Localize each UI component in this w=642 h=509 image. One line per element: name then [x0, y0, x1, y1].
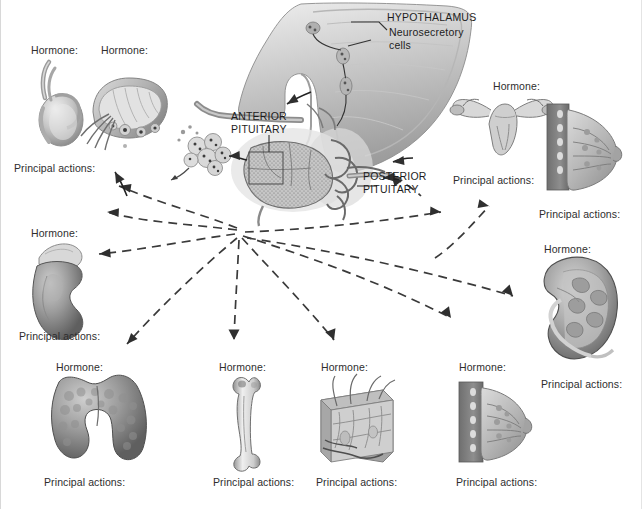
label-hormone-mammary-lower: Hormone:	[459, 361, 506, 373]
label-hormone-adrenal: Hormone:	[31, 227, 78, 239]
label-actions-testis: Principal actions:	[14, 162, 95, 174]
label-actions-thyroid: Principal actions:	[44, 476, 125, 488]
label-hormone-skin: Hormone:	[321, 361, 368, 373]
label-actions-skin: Principal actions:	[316, 476, 397, 488]
label-hypothalamus: HYPOTHALAMUS	[387, 11, 476, 23]
label-actions-kidney: Principal actions:	[541, 378, 622, 390]
label-hormone-uterus: Hormone:	[493, 80, 540, 92]
label-hormone-ovary: Hormone:	[101, 44, 148, 56]
label-actions-uterus: Principal actions:	[453, 174, 534, 186]
label-hormone-kidney: Hormone:	[544, 243, 591, 255]
label-actions-bone: Principal actions:	[213, 476, 294, 488]
label-hormone-thyroid: Hormone:	[56, 361, 103, 373]
label-posterior-pituitary: POSTERIOR PITUITARY	[363, 170, 427, 195]
label-hormone-bone: Hormone:	[219, 361, 266, 373]
label-actions-adrenal: Principal actions:	[19, 330, 100, 342]
label-actions-mammary-lower: Principal actions:	[456, 476, 537, 488]
label-layer: HYPOTHALAMUS Neurosecretory cells ANTERI…	[1, 0, 642, 509]
label-anterior-pituitary: ANTERIOR PITUITARY	[231, 110, 287, 135]
label-neurosecretory-cells: Neurosecretory cells	[389, 26, 464, 51]
label-hormone-testis: Hormone:	[31, 44, 78, 56]
label-actions-mammary-upper: Principal actions:	[539, 208, 620, 220]
diagram-canvas: HYPOTHALAMUS Neurosecretory cells ANTERI…	[0, 0, 642, 509]
